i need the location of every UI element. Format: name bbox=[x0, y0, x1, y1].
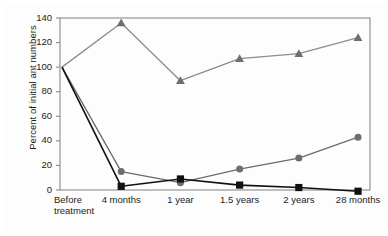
plot-frame bbox=[60, 18, 370, 190]
y-tick-label: 20 bbox=[24, 160, 52, 170]
x-tick-label-line1: 28 months bbox=[315, 194, 388, 205]
x-tick-label: 28 months bbox=[315, 194, 388, 205]
y-tick-label: 120 bbox=[24, 37, 52, 47]
series-line-triangle bbox=[62, 23, 358, 81]
y-tick-label: 0 bbox=[24, 185, 52, 195]
axis-ticks bbox=[56, 18, 358, 190]
data-series bbox=[58, 19, 363, 195]
data-point-circle bbox=[118, 168, 125, 175]
data-point-square bbox=[295, 184, 302, 191]
data-point-square bbox=[177, 175, 184, 182]
series-line-square bbox=[62, 67, 358, 191]
data-point-triangle bbox=[354, 33, 363, 41]
data-point-circle bbox=[295, 155, 302, 162]
data-point-circle bbox=[236, 166, 243, 173]
chart-figure: Percent of initial ant numbers 020406080… bbox=[0, 0, 388, 236]
y-tick-label: 40 bbox=[24, 135, 52, 145]
y-tick-label: 60 bbox=[24, 111, 52, 121]
x-tick-label-line2: treatment bbox=[54, 205, 140, 216]
y-tick-label: 100 bbox=[24, 62, 52, 72]
series-line-circle bbox=[62, 67, 358, 182]
chart-canvas: Percent of initial ant numbers 020406080… bbox=[4, 4, 384, 232]
data-point-square bbox=[118, 183, 125, 190]
y-tick-label: 140 bbox=[24, 13, 52, 23]
data-point-circle bbox=[355, 134, 362, 141]
data-point-square bbox=[236, 181, 243, 188]
data-point-triangle bbox=[117, 19, 126, 27]
y-tick-label: 80 bbox=[24, 86, 52, 96]
